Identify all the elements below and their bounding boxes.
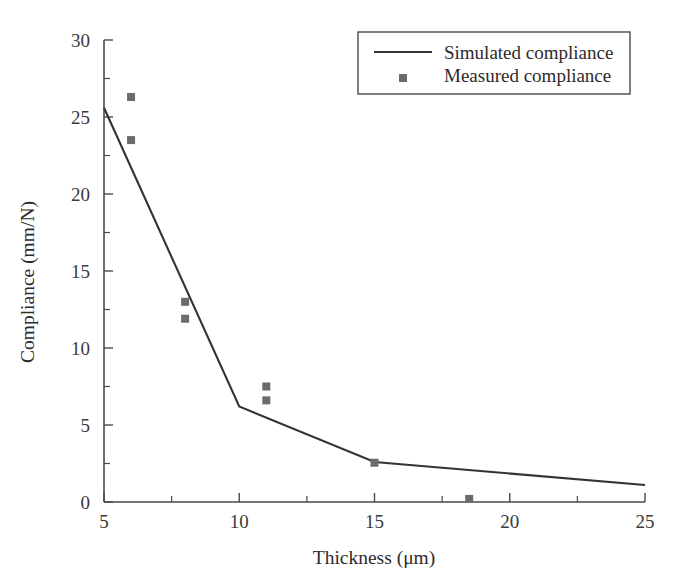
x-tick-label: 5	[99, 511, 109, 532]
measured-data-point	[465, 495, 473, 503]
x-tick-label: 15	[365, 511, 384, 532]
x-tick-label: 10	[230, 511, 249, 532]
legend: Simulated compliance Measured compliance	[358, 32, 630, 94]
compliance-vs-thickness-chart: 051015202530 510152025 Thickness (μm) Co…	[0, 0, 677, 585]
y-axis-title: Compliance (mm/N)	[17, 201, 39, 363]
measured-data-point	[371, 459, 379, 467]
legend-square-swatch	[399, 74, 407, 82]
y-tick-label: 30	[71, 30, 90, 51]
y-tick-label: 15	[71, 261, 90, 282]
measured-data-point	[181, 298, 189, 306]
y-tick-label: 10	[71, 338, 90, 359]
measured-data-point	[127, 93, 135, 101]
legend-label-measured: Measured compliance	[444, 65, 611, 86]
measured-data-point	[262, 396, 270, 404]
y-tick-label: 0	[81, 492, 91, 513]
legend-label-simulated: Simulated compliance	[444, 42, 613, 63]
x-tick-label: 25	[636, 511, 655, 532]
measured-data-point	[181, 315, 189, 323]
measured-data-point	[127, 136, 135, 144]
x-tick-label: 20	[500, 511, 519, 532]
x-axis-title: Thickness (μm)	[313, 547, 436, 569]
y-tick-label: 25	[71, 107, 90, 128]
measured-data-point	[262, 383, 270, 391]
y-tick-label: 5	[81, 415, 91, 436]
y-tick-label: 20	[71, 184, 90, 205]
chart-figure: 051015202530 510152025 Thickness (μm) Co…	[0, 0, 677, 585]
